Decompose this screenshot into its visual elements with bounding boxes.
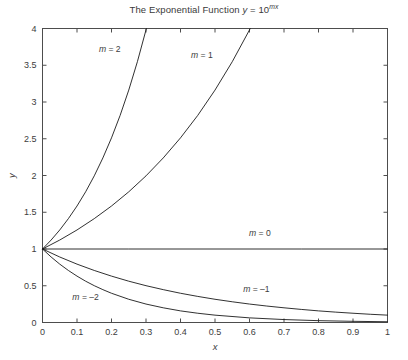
y-tick-label: 2 [31,171,36,181]
x-tick-label: 0.8 [312,327,325,337]
x-axis-label: x [212,341,219,352]
y-tick-label: 1 [31,244,36,254]
y-tick-label: 3 [31,97,36,107]
chart-title: The Exponential Function y = 10mx [0,4,408,15]
curve-label: m = 2 [99,44,121,54]
chart-title-prefix: The Exponential Function [130,4,243,15]
x-tick-label: 0.9 [347,327,360,337]
chart-title-exponent: mx [269,3,278,10]
y-tick-label: 0.5 [24,281,37,291]
x-tick-label: 0.7 [278,327,291,337]
y-tick-label: 0 [31,318,36,328]
curve-label: m = –2 [72,292,99,302]
curve-label: m = 1 [191,50,213,60]
curve-label: m = 0 [249,228,271,238]
y-tick-label: 3.5 [24,60,37,70]
plot-area: 00.10.20.30.40.50.60.70.80.91 00.511.522… [0,0,408,360]
x-tick-label: 0.2 [105,327,118,337]
y-tick-label: 1.5 [24,207,37,217]
chart-title-equation: = 10 [247,4,269,15]
x-tick-label: 1 [385,327,390,337]
x-tick-label: 0 [40,327,45,337]
x-tick-label: 0.5 [209,327,222,337]
x-tick-label: 0.4 [174,327,187,337]
y-axis-label: y [6,172,17,179]
y-tick-label: 2.5 [24,134,37,144]
chart-figure: The Exponential Function y = 10mx 00.10.… [0,0,408,360]
x-tick-label: 0.1 [71,327,84,337]
x-tick-label: 0.3 [140,327,153,337]
y-tick-label: 4 [31,24,36,34]
curve-label: m = –1 [243,284,270,294]
x-tick-label: 0.6 [243,327,256,337]
